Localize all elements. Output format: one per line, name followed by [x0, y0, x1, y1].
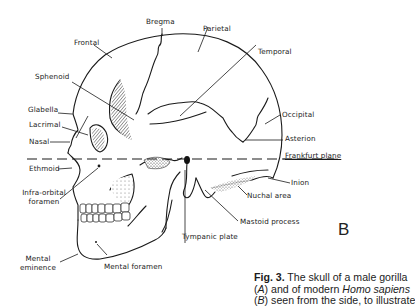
label-parietal: Parietal — [203, 25, 231, 33]
caption-text: ) and of modern — [265, 283, 343, 295]
label-infra-orbital-1: Infra-orbital — [14, 189, 74, 197]
label-glabella: Glabella — [28, 106, 58, 114]
label-mastoid-process: Mastoid process — [240, 218, 300, 226]
label-mental-eminence-2: eminence — [14, 264, 62, 272]
label-tympanic-plate: Tympanic plate — [182, 233, 238, 241]
caption-italic-A: A — [258, 283, 265, 295]
label-nuchal-area: Nuchal area — [247, 192, 291, 200]
caption-species-name: Homo sapiens — [342, 283, 410, 295]
label-bregma: Bregma — [146, 18, 175, 26]
label-occipital: Occipital — [282, 111, 314, 119]
caption-fig-label: Fig. 3. — [254, 271, 285, 283]
label-sphenoid: Sphenoid — [35, 73, 69, 81]
label-ethmoid: Ethmoid — [29, 165, 60, 173]
label-asterion: Asterion — [285, 135, 316, 143]
label-frankfurt-plane: Frankfurt plane — [285, 152, 341, 160]
label-inion: Inion — [291, 179, 309, 187]
figure-caption: Fig. 3. The skull of a male gorilla (A) … — [254, 272, 380, 307]
caption-text: ) seen from the side, to illustrate — [265, 294, 415, 306]
panel-letter: B — [338, 220, 349, 240]
label-frontal: Frontal — [74, 39, 99, 47]
caption-italic-B: B — [258, 294, 265, 306]
label-mental-foramen: Mental foramen — [104, 263, 162, 271]
label-mental-eminence-1: Mental — [14, 255, 62, 263]
label-infra-orbital-2: foramen — [14, 198, 74, 206]
label-temporal: Temporal — [258, 48, 292, 56]
caption-line-3: (B) seen from the side, to illustrate — [254, 295, 380, 307]
label-lacrimal: Lacrimal — [29, 121, 61, 129]
caption-text: The skull of a male gorilla — [285, 271, 408, 283]
label-nasal: Nasal — [29, 138, 49, 146]
